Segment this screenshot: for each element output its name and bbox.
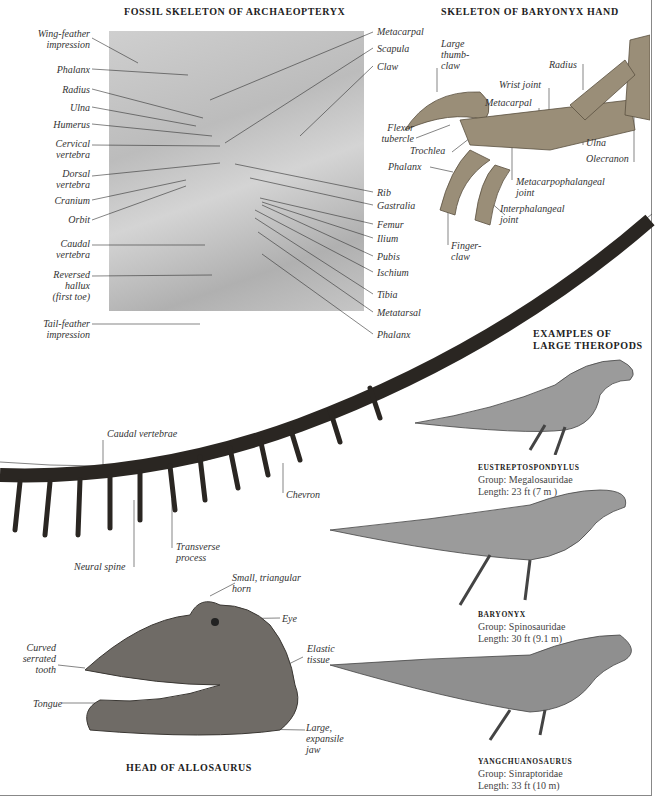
label-ulna-hand: Ulna xyxy=(586,137,606,148)
label-flexor-tubercle: Flexortubercle xyxy=(360,122,414,144)
label-tongue: Tongue xyxy=(33,698,62,709)
label-curved-serrated-tooth: Curvedserratedtooth xyxy=(0,642,56,675)
label-hand-metacarpal: Metacarpal xyxy=(485,97,532,108)
label-cranium: Cranium xyxy=(2,195,90,206)
label-large-thumb-claw: Largethumb-claw xyxy=(441,38,469,71)
label-dorsal: Dorsalvertebra xyxy=(2,168,90,190)
label-humerus: Humerus xyxy=(2,119,90,130)
label-olecranon: Olecranon xyxy=(586,153,629,164)
yangchuanosaurus-image xyxy=(330,630,640,745)
label-wrist-joint: Wrist joint xyxy=(499,79,541,90)
allosaurus-title: HEAD OF ALLOSAURUS xyxy=(126,762,252,773)
label-claw: Claw xyxy=(377,61,398,72)
label-trochlea: Trochlea xyxy=(410,145,445,156)
label-metacarpophalangeal-joint: Metacarpophalangealjoint xyxy=(516,176,605,198)
label-ulna: Ulna xyxy=(2,102,90,113)
label-transverse-process: Transverseprocess xyxy=(176,541,220,563)
theropods-title: EXAMPLES OFLARGE THEROPODS xyxy=(533,328,643,352)
allosaurus-head-image xyxy=(80,590,310,750)
eustreptospondylus-image xyxy=(415,355,645,455)
page: FOSSIL SKELETON OF ARCHAEOPTERYX xyxy=(0,0,660,801)
label-rib: Rib xyxy=(377,187,391,198)
label-neural-spine: Neural spine xyxy=(74,561,125,572)
baryonyx-hand-title: SKELETON OF BARYONYX HAND xyxy=(441,6,619,17)
label-hand-radius: Radius xyxy=(549,59,577,70)
baryonyx-image xyxy=(330,485,640,615)
label-eye: Eye xyxy=(282,613,297,624)
label-wing-feather: Wing-featherimpression xyxy=(2,28,90,50)
yangchuanosaurus-caption: YANGCHUANOSAURUS Group: SinraptoridaeLen… xyxy=(478,756,572,792)
label-radius: Radius xyxy=(2,84,90,95)
label-cervical: Cervicalvertebra xyxy=(2,138,90,160)
label-caudal-vertebrae: Caudal vertebrae xyxy=(107,428,177,439)
label-triangular-horn: Small, triangularhorn xyxy=(232,572,301,594)
label-phalanx: Phalanx xyxy=(2,64,90,75)
label-chevron: Chevron xyxy=(286,489,320,500)
label-hand-phalanx: Phalanx xyxy=(388,161,421,172)
